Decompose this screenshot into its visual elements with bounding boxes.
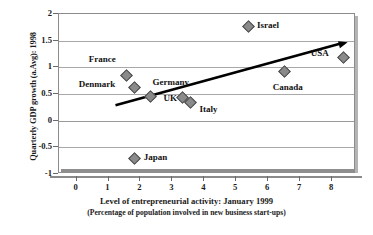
x-axis-tick-label: 6 <box>255 182 279 192</box>
x-axis-tick-label: 1 <box>96 182 120 192</box>
y-axis-tick-mark <box>53 93 58 94</box>
y-axis-tick-mark <box>53 173 58 174</box>
x-axis-tick-mark <box>299 176 300 181</box>
y-axis-tick-label: -1 <box>10 168 52 178</box>
y-axis-tick-mark <box>53 120 58 121</box>
x-axis-tick-mark <box>331 176 332 181</box>
gridline <box>59 147 354 148</box>
plot-frame-shadow-right <box>355 16 358 173</box>
y-axis-tick-mark <box>53 66 58 67</box>
plot-frame-shadow-bottom <box>61 169 357 173</box>
y-axis-tick-label: 0.5 <box>10 88 52 98</box>
data-point-label: Germany <box>153 77 190 87</box>
x-axis-title: Level of entrepreneurial activity: Janua… <box>0 196 373 206</box>
data-point-label: Israel <box>257 20 279 30</box>
y-axis-tick-label: 1 <box>10 61 52 71</box>
x-axis-subtitle: (Percentage of population involved in ne… <box>0 208 373 217</box>
x-axis-tick-label: 8 <box>319 182 343 192</box>
y-axis-tick-mark <box>53 13 58 14</box>
y-axis-tick-label: 1.5 <box>10 35 52 45</box>
gridline <box>59 41 354 42</box>
x-axis-tick-mark <box>139 176 140 181</box>
y-axis-tick-label: -0.5 <box>10 141 52 151</box>
x-axis-tick-label: 3 <box>159 182 183 192</box>
x-axis-tick-label: 0 <box>64 182 88 192</box>
x-axis-tick-label: 5 <box>223 182 247 192</box>
x-axis-tick-mark <box>171 176 172 181</box>
x-axis-tick-mark <box>76 176 77 181</box>
y-axis-tick-mark <box>53 146 58 147</box>
data-point-label: Japan <box>144 152 168 162</box>
data-point-label: UK <box>164 93 178 103</box>
x-axis-tick-mark <box>235 176 236 181</box>
x-axis-tick-label: 2 <box>127 182 151 192</box>
plot-area <box>58 13 355 173</box>
gridline <box>59 121 354 122</box>
x-axis-line <box>50 176 362 178</box>
data-point-label: France <box>89 54 116 64</box>
x-axis-tick-mark <box>203 176 204 181</box>
data-point-label: Denmark <box>79 79 116 89</box>
x-axis-tick-mark <box>267 176 268 181</box>
gridline <box>59 94 354 95</box>
y-axis-tick-label: 0 <box>10 115 52 125</box>
y-axis-tick-mark <box>53 40 58 41</box>
x-axis-tick-label: 4 <box>191 182 215 192</box>
gridline <box>59 67 354 68</box>
data-point-label: USA <box>311 48 329 58</box>
data-point-label: Italy <box>200 104 218 114</box>
chart-figure: Quarterly GDP growth (a.Avg): 1998 Level… <box>0 0 373 235</box>
data-point-label: Canada <box>273 82 303 92</box>
x-axis-tick-label: 7 <box>287 182 311 192</box>
x-axis-tick-mark <box>108 176 109 181</box>
y-axis-tick-label: 2 <box>10 8 52 18</box>
